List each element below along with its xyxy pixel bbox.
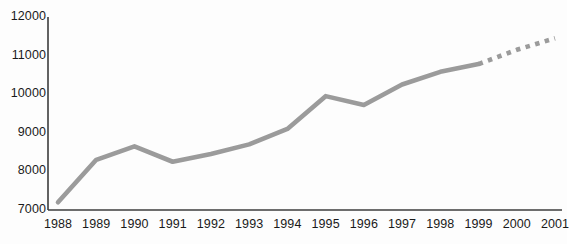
y-tick-label: 11000 (0, 48, 46, 62)
series-line-forecast (479, 38, 555, 64)
y-tick-label: 8000 (0, 163, 46, 177)
y-tick-label: 7000 (0, 202, 46, 216)
series-line-actual (58, 64, 479, 202)
y-tick-label: 12000 (0, 9, 46, 23)
x-tick-label: 2001 (533, 217, 573, 231)
y-tick-label: 10000 (0, 86, 46, 100)
y-tick-label: 9000 (0, 125, 46, 139)
